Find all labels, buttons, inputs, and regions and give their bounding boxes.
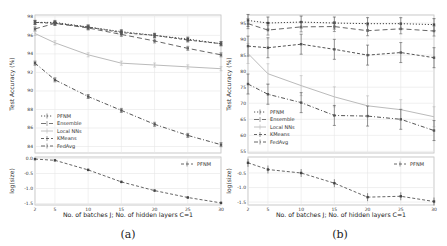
y-axis-label: log(size)	[225, 168, 233, 193]
data-point	[153, 123, 155, 125]
data-point	[34, 28, 36, 30]
y-axis-label: Test Accuracy (%)	[225, 57, 233, 111]
y-tick-label: 95	[240, 21, 246, 26]
y-tick-label: 75	[240, 85, 246, 90]
legend-label: KMeans	[57, 135, 77, 141]
legend-label: FedAvg	[270, 139, 288, 146]
x-axis-label: No. of batches J; No. of hidden layers C…	[276, 211, 406, 219]
y-tick-label: -1.0	[24, 186, 33, 191]
data-point	[267, 47, 269, 49]
data-point	[187, 134, 189, 136]
y-tick-label: 60	[240, 133, 246, 138]
data-point	[54, 22, 56, 24]
x-tick-label: 2	[247, 207, 250, 212]
legend-label: PFNM	[57, 113, 71, 119]
y-tick-label: 0.0	[26, 156, 33, 161]
y-tick-label: -0.5	[24, 171, 33, 176]
data-point	[187, 39, 189, 41]
y-axis-label: Test Accuracy (%)	[8, 57, 16, 111]
legend-label: KMeans	[270, 131, 290, 137]
y-tick-label: 90	[27, 88, 33, 93]
legend-label: PFNM	[270, 109, 284, 115]
data-point	[300, 172, 302, 174]
data-point	[187, 47, 189, 49]
data-point	[366, 30, 368, 32]
y-tick-label: -1.0	[237, 185, 246, 190]
data-point	[87, 26, 89, 28]
y-tick-label: 94	[27, 51, 33, 56]
data-point	[220, 143, 222, 145]
x-tick-label: 2	[34, 207, 37, 212]
plot-area-size	[35, 157, 221, 205]
y-tick-label: 55	[240, 149, 246, 154]
data-point	[400, 51, 402, 53]
x-axis-label: No. of batches J; No. of hidden layers C…	[63, 211, 193, 219]
data-point	[400, 118, 402, 120]
y-tick-label: 70	[240, 101, 246, 106]
y-tick-label: 80	[240, 69, 246, 74]
y-tick-label: 88	[27, 107, 33, 112]
legend-label: Local NNs	[57, 128, 82, 134]
data-point	[267, 29, 269, 31]
x-tick-label: 30	[431, 207, 437, 212]
y-tick-label: 86	[27, 125, 33, 130]
data-point	[333, 48, 335, 50]
y-tick-label: -1.5	[24, 201, 33, 206]
y-tick-label: 84	[27, 144, 33, 149]
data-point	[34, 62, 36, 64]
y-tick-label: 65	[240, 117, 246, 122]
legend-label: Ensemble	[57, 120, 82, 126]
data-point	[267, 22, 269, 24]
data-point	[267, 168, 269, 170]
data-point	[333, 182, 335, 184]
figure: 8486889092949698PFNMEnsembleLocal NNsKMe…	[0, 0, 447, 246]
caption-b: (b)	[332, 228, 348, 241]
data-point	[120, 31, 122, 33]
legend-label: Local NNs	[270, 124, 295, 130]
data-point	[433, 30, 435, 32]
data-point	[300, 26, 302, 28]
x-tick-label: 5	[53, 207, 56, 212]
data-point	[54, 79, 56, 81]
y-axis-label: log(size)	[8, 168, 16, 193]
data-point	[247, 83, 249, 85]
data-point	[333, 25, 335, 27]
chart-panel-b: 556065707580859095PFNMEnsembleLocal NNsK…	[225, 14, 437, 219]
y-tick-label: 85	[240, 53, 246, 58]
data-point	[433, 200, 435, 202]
data-point	[400, 28, 402, 30]
data-point	[366, 54, 368, 56]
legend-label: FedAvg	[57, 143, 75, 150]
caption-a: (a)	[120, 228, 135, 241]
data-point	[220, 43, 222, 45]
y-tick-label: 96	[27, 33, 33, 38]
data-point	[153, 40, 155, 42]
data-point	[187, 196, 189, 198]
data-point	[366, 115, 368, 117]
data-point	[87, 95, 89, 97]
data-point	[120, 181, 122, 183]
data-point	[120, 109, 122, 111]
legend-label: PFNM	[410, 161, 424, 167]
data-point	[333, 114, 335, 116]
data-point	[267, 93, 269, 95]
data-point	[87, 169, 89, 171]
data-point	[433, 23, 435, 25]
y-tick-label: 92	[27, 70, 33, 75]
data-point	[220, 202, 222, 204]
data-point	[247, 162, 249, 164]
data-point	[400, 195, 402, 197]
x-tick-label: 5	[266, 207, 269, 212]
data-point	[34, 158, 36, 160]
legend-label: Ensemble	[270, 116, 295, 122]
data-point	[366, 22, 368, 24]
data-point	[247, 22, 249, 24]
chart-panel-a: 8486889092949698PFNMEnsembleLocal NNsKMe…	[8, 14, 224, 219]
data-point	[220, 54, 222, 56]
data-point	[153, 189, 155, 191]
data-point	[300, 43, 302, 45]
y-tick-label: -1.5	[237, 200, 246, 205]
data-point	[247, 45, 249, 47]
x-tick-label: 30	[218, 207, 224, 212]
legend-label: PFNM	[197, 161, 211, 167]
